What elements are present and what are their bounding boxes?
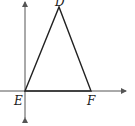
label-e: E — [13, 94, 23, 108]
triangle-diagram: D E F — [0, 0, 135, 126]
label-d: D — [54, 0, 65, 9]
label-f: F — [86, 94, 96, 108]
triangle-def — [25, 7, 91, 91]
